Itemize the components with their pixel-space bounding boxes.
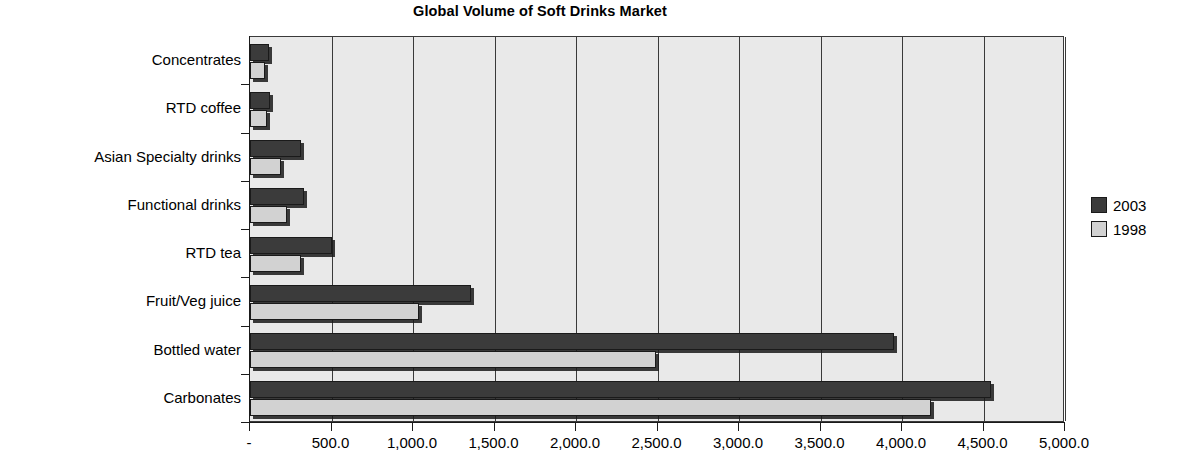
bar-1998-rtd-coffee[interactable] <box>250 110 267 127</box>
bar-2003-fruit-veg-juice[interactable] <box>250 285 471 302</box>
bar-2003-concentrates[interactable] <box>250 44 269 61</box>
x-axis-tick <box>983 423 984 431</box>
chart-container: Global Volume of Soft Drinks Market Conc… <box>0 0 1196 468</box>
y-axis-tick <box>241 229 250 230</box>
category-label-fruit-veg-juice: Fruit/Veg juice <box>0 292 241 309</box>
y-axis-tick <box>241 84 250 85</box>
category-label-carbonates: Carbonates <box>0 389 241 406</box>
bar-1998-asian-specialty-drinks[interactable] <box>250 158 281 175</box>
legend-label: 1998 <box>1113 222 1146 237</box>
bar-2003-functional-drinks[interactable] <box>250 188 304 205</box>
bar-1998-fruit-veg-juice[interactable] <box>250 303 419 320</box>
x-axis-tick-label: 1,000.0 <box>387 434 437 451</box>
gridline <box>984 37 985 421</box>
bar-2003-asian-specialty-drinks[interactable] <box>250 140 301 157</box>
bar-2003-bottled-water[interactable] <box>250 333 894 350</box>
x-axis-tick-label: - <box>247 434 252 451</box>
bar-2003-rtd-coffee[interactable] <box>250 92 270 109</box>
y-axis-tick <box>241 277 250 278</box>
x-axis-tick-label: 3,000.0 <box>713 434 763 451</box>
x-axis-tick-label: 500.0 <box>312 434 350 451</box>
bar-1998-carbonates[interactable] <box>250 399 931 416</box>
x-axis-tick <box>494 423 495 431</box>
category-label-asian-specialty-drinks: Asian Specialty drinks <box>0 148 241 165</box>
x-axis-tick <box>820 423 821 431</box>
x-axis-tick-label: 2,500.0 <box>631 434 681 451</box>
x-axis-tick-label: 3,500.0 <box>794 434 844 451</box>
x-axis-tick-label: 4,000.0 <box>876 434 926 451</box>
x-axis-tick-label: 1,500.0 <box>468 434 518 451</box>
legend-item-1998[interactable]: 1998 <box>1091 217 1146 241</box>
x-axis-tick <box>1064 423 1065 431</box>
bar-2003-rtd-tea[interactable] <box>250 237 332 254</box>
chart-title: Global Volume of Soft Drinks Market <box>0 3 1080 19</box>
gridline <box>1065 37 1066 421</box>
y-axis-tick <box>241 374 250 375</box>
gridline <box>739 37 740 421</box>
bar-1998-bottled-water[interactable] <box>250 351 656 368</box>
x-axis-tick <box>412 423 413 431</box>
y-axis-tick <box>241 181 250 182</box>
gridline <box>821 37 822 421</box>
legend-label: 2003 <box>1113 198 1146 213</box>
x-axis-tick <box>331 423 332 431</box>
y-axis-tick <box>241 133 250 134</box>
bar-1998-functional-drinks[interactable] <box>250 206 287 223</box>
bar-1998-concentrates[interactable] <box>250 62 265 79</box>
gridline <box>902 37 903 421</box>
legend-swatch-icon <box>1091 221 1107 237</box>
category-label-rtd-tea: RTD tea <box>0 244 241 261</box>
bar-2003-carbonates[interactable] <box>250 381 991 398</box>
legend-swatch-icon <box>1091 197 1107 213</box>
x-axis-tick-label: 5,000.0 <box>1039 434 1089 451</box>
category-label-concentrates: Concentrates <box>0 51 241 68</box>
x-axis-tick <box>738 423 739 431</box>
x-axis-tick-label: 2,000.0 <box>550 434 600 451</box>
legend-item-2003[interactable]: 2003 <box>1091 193 1146 217</box>
x-axis-tick <box>249 423 250 431</box>
category-label-rtd-coffee: RTD coffee <box>0 99 241 116</box>
bar-1998-rtd-tea[interactable] <box>250 255 301 272</box>
category-label-functional-drinks: Functional drinks <box>0 196 241 213</box>
category-label-bottled-water: Bottled water <box>0 341 241 358</box>
x-axis-tick <box>657 423 658 431</box>
legend: 20031998 <box>1091 193 1146 241</box>
x-axis-tick <box>575 423 576 431</box>
x-axis-tick-label: 4,500.0 <box>957 434 1007 451</box>
y-axis-tick <box>241 326 250 327</box>
x-axis-tick <box>901 423 902 431</box>
plot-area <box>249 36 1064 422</box>
